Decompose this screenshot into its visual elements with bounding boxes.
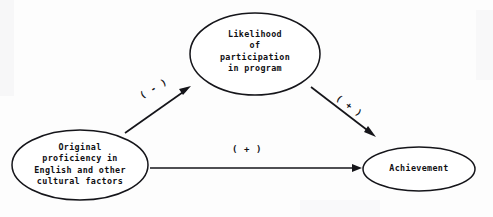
edge-label-positive-sign-lower: ( + ): [232, 144, 262, 154]
path-diagram-canvas: Likelihood of participation in program O…: [0, 0, 493, 217]
node-achievement[interactable]: [363, 147, 475, 191]
edge-likelihood-to-achievement[interactable]: [311, 87, 376, 137]
node-likelihood[interactable]: [190, 13, 320, 95]
diagram-graphics: [0, 0, 493, 217]
edge-proficiency-to-achievement[interactable]: [150, 164, 362, 172]
node-original-proficiency[interactable]: [12, 130, 148, 200]
edge-proficiency-to-likelihood[interactable]: [125, 86, 191, 133]
